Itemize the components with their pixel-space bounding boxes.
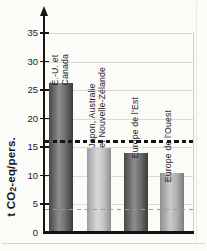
y-axis-label: t CO2-eq/pers.	[5, 137, 18, 217]
y-tick-label-25: 25	[12, 84, 38, 95]
bar-label-4: Europe de l’Ouest	[164, 110, 174, 182]
figure: 05101520253035É.-U. etCanadaJapon, Austr…	[0, 0, 207, 251]
bar-label-3: Europe de l’Est	[131, 97, 141, 158]
x-axis-baseline	[43, 231, 194, 234]
bar-label-line: Europe de l’Est	[131, 97, 141, 158]
y-tick-label-20: 20	[12, 113, 38, 124]
bar-label-line: Europe de l’Ouest	[164, 110, 174, 182]
bar-label-line: et Nouvelle-Zélande	[98, 67, 108, 148]
y-axis-arrow-icon	[40, 6, 48, 16]
gridline-35	[45, 33, 193, 34]
scan-edge-right	[196, 2, 197, 242]
y-axis-label-suffix: -eq/pers.	[5, 137, 17, 187]
bar-chart-plot-area: 05101520253035É.-U. etCanadaJapon, Austr…	[0, 0, 207, 251]
reference-line-4	[45, 209, 193, 210]
y-tick-20	[40, 118, 49, 120]
y-tick-35	[40, 32, 49, 34]
bar-2	[87, 148, 111, 233]
bar-3	[124, 153, 148, 233]
bar-label-1: É.-U. etCanada	[51, 54, 71, 85]
y-tick-5	[40, 203, 49, 205]
y-tick-30	[40, 61, 49, 63]
y-tick-25	[40, 89, 49, 91]
y-tick-label-30: 30	[12, 56, 38, 67]
y-tick-10	[40, 175, 49, 177]
y-axis-label-prefix: t CO	[5, 192, 17, 217]
y-axis-label-subscript: 2	[9, 187, 18, 192]
y-tick-label-35: 35	[12, 27, 38, 38]
y-tick-label-0: 0	[12, 227, 38, 238]
bar-label-line: Canada	[61, 54, 71, 85]
bar-label-2: Japon, Australieet Nouvelle-Zélande	[88, 67, 108, 148]
plot-right-border	[193, 33, 194, 233]
y-tick-15	[40, 146, 49, 148]
scan-edge-bottom	[2, 243, 205, 244]
y-axis-line	[43, 13, 45, 234]
